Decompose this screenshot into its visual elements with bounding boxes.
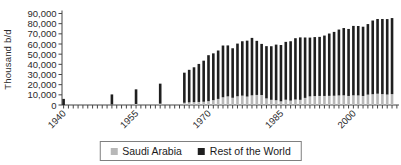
bar-segment-saudi-arabia [289,101,292,105]
bar-segment-saudi-arabia [371,94,374,105]
bar-segment-rest-of-world [376,19,379,94]
y-tick-label: 50,000 [27,49,56,60]
bar-segment-rest-of-world [352,26,355,95]
bar-segment-rest-of-world [256,41,259,95]
bar-segment-saudi-arabia [183,103,186,105]
bar-segment-saudi-arabia [270,100,273,105]
bar-segment-rest-of-world [362,27,365,96]
bar-segment-saudi-arabia [342,95,345,105]
bar-segment-rest-of-world [342,28,345,95]
oil-production-chart: 010,00020,00030,00040,00050,00060,00070,… [0,0,401,165]
bar-segment-rest-of-world [111,94,114,104]
bar-segment-rest-of-world [251,38,254,95]
bar-segment-saudi-arabia [391,94,394,105]
x-tick-label: 1955 [118,108,141,131]
bar-segment-rest-of-world [367,24,370,95]
bar-segment-saudi-arabia [367,95,370,105]
bar-segment-rest-of-world [381,19,384,94]
legend-label-rest-of-world: Rest of the World [210,145,291,157]
bar-segment-rest-of-world [299,37,302,99]
bar-segment-rest-of-world [236,44,239,97]
bar-segment-saudi-arabia [333,96,336,105]
y-tick-label: 0 [51,100,56,111]
bar-segment-saudi-arabia [217,99,220,105]
bar-segment-saudi-arabia [227,96,230,105]
bar-segment-rest-of-world [159,84,162,104]
bar-segment-rest-of-world [323,36,326,96]
bar-segment-rest-of-world [246,41,249,97]
bar-segment-saudi-arabia [284,100,287,105]
x-tick-label: 2000 [335,108,358,131]
bar-segment-saudi-arabia [309,96,312,105]
bar-segment-saudi-arabia [328,96,331,105]
bar-segment-rest-of-world [62,99,65,105]
y-tick-label: 40,000 [27,59,56,70]
bar-segment-saudi-arabia [376,94,379,105]
bar-segment-rest-of-world [371,21,374,95]
bar-segment-rest-of-world [212,53,215,100]
bar-segment-rest-of-world [304,37,307,97]
bar-segment-rest-of-world [391,18,394,94]
bar-segment-saudi-arabia [280,101,283,105]
bar-segment-saudi-arabia [362,96,365,105]
bar-segment-saudi-arabia [352,95,355,105]
bar-segment-saudi-arabia [188,102,191,105]
bar-segment-rest-of-world [198,64,201,102]
chart-canvas: 010,00020,00030,00040,00050,00060,00070,… [0,0,401,140]
legend-item-rest-of-world: Rest of the World [198,145,291,157]
bar-segment-rest-of-world [318,37,321,96]
legend-item-saudi-arabia: Saudi Arabia [110,145,182,157]
bar-segment-rest-of-world [338,30,341,96]
y-tick-label: 70,000 [27,28,56,39]
bar-segment-rest-of-world [270,46,273,100]
bar-segment-rest-of-world [333,32,336,96]
bar-segment-saudi-arabia [304,98,307,105]
bar-segment-saudi-arabia [231,98,234,105]
bar-segment-saudi-arabia [236,96,239,105]
bar-segment-rest-of-world [183,73,186,103]
x-tick-label: 1970 [190,108,213,131]
bar-segment-saudi-arabia [198,102,201,105]
bar-segment-rest-of-world [207,55,210,101]
bar-segment-saudi-arabia [193,102,196,105]
bar-segment-saudi-arabia [275,100,278,105]
bar-segment-saudi-arabia [265,98,268,105]
bar-segment-rest-of-world [241,41,244,95]
bar-segment-rest-of-world [188,70,191,103]
legend-label-saudi-arabia: Saudi Arabia [122,145,182,157]
bar-segment-rest-of-world [231,48,234,98]
bar-segment-rest-of-world [309,38,312,97]
bar-segment-saudi-arabia [294,100,297,105]
bar-segment-rest-of-world [202,61,205,102]
bar-segment-rest-of-world [280,45,283,101]
bar-segment-rest-of-world [260,44,263,95]
bar-segment-rest-of-world [265,46,268,98]
bar-segment-rest-of-world [217,51,220,99]
bar-segment-saudi-arabia [111,104,114,105]
bar-segment-saudi-arabia [251,95,254,105]
bar-segment-saudi-arabia [318,96,321,105]
bar-segment-rest-of-world [294,38,297,99]
bar-segment-saudi-arabia [256,95,259,105]
bar-segment-saudi-arabia [212,100,215,105]
bar-segment-saudi-arabia [357,95,360,105]
y-tick-label: 20,000 [27,79,56,90]
bar-segment-saudi-arabia [135,104,138,105]
y-tick-label: 80,000 [27,18,56,29]
x-tick-label: 1940 [45,108,68,131]
bar-segment-saudi-arabia [313,96,316,105]
x-tick-label: 1985 [263,108,286,131]
y-tick-label: 10,000 [27,89,56,100]
bar-segment-rest-of-world [193,67,196,102]
bar-segment-saudi-arabia [381,94,384,105]
bar-segment-rest-of-world [328,34,331,96]
bar-segment-rest-of-world [313,37,316,96]
bar-segment-saudi-arabia [202,102,205,105]
bar-segment-rest-of-world [347,29,350,96]
y-tick-label: 30,000 [27,69,56,80]
bar-segment-saudi-arabia [347,96,350,105]
saudi-arabia-swatch-icon [110,148,117,155]
bar-segment-rest-of-world [275,45,278,101]
bar-segment-saudi-arabia [246,97,249,105]
bar-segment-rest-of-world [284,42,287,100]
